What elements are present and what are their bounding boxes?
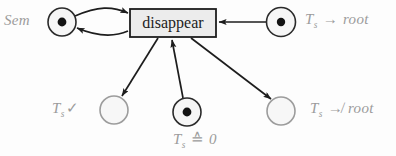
place-label-ts-not-root-base: T <box>310 100 319 116</box>
place-label-ts-check-base: T <box>52 100 61 116</box>
token-sem <box>58 18 67 27</box>
place-label-ts-root-tail: root <box>343 11 369 27</box>
place-label-sem-text: Sem <box>4 12 30 28</box>
token-ts-root <box>277 18 285 26</box>
arc-disappear-to-tscheck <box>122 38 158 96</box>
place-ts-not-root[interactable] <box>267 97 295 125</box>
place-label-ts-check: Ts✓ <box>52 99 80 119</box>
place-label-ts-not-root-tail: root <box>348 100 374 116</box>
place-label-ts-not-root-sub: s <box>319 109 323 119</box>
arc-sem-to-disappear <box>75 8 128 16</box>
place-label-ts-zero-base: T <box>173 131 182 147</box>
token-ts-zero <box>183 108 192 117</box>
place-label-sem: Sem <box>4 12 30 29</box>
place-label-ts-root: Ts → root <box>305 11 369 30</box>
transition-label: disappear <box>132 12 214 33</box>
arc-disappear-to-tsnroot <box>191 38 271 99</box>
place-label-ts-check-sub: s <box>61 109 65 119</box>
arc-tszero-to-disappear <box>172 40 183 98</box>
negated-right-arrow-icon: ↛ <box>327 100 344 116</box>
right-arrow-icon: → <box>322 11 339 27</box>
corresponds-to-icon: ≙ <box>190 131 205 147</box>
place-label-ts-root-sub: s <box>314 20 318 30</box>
place-label-ts-root-base: T <box>305 11 314 27</box>
place-ts-check[interactable] <box>100 96 128 124</box>
arc-disappear-to-sem <box>77 28 128 35</box>
place-label-ts-not-root: Ts ↛ root <box>310 100 374 119</box>
place-label-ts-zero-tail: 0 <box>209 131 217 147</box>
checkmark-icon: ✓ <box>65 100 80 116</box>
place-label-ts-zero: Ts ≙ 0 <box>173 130 217 150</box>
place-label-ts-zero-sub: s <box>182 140 186 150</box>
